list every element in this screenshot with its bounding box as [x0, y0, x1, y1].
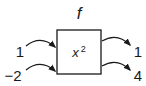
- function-box: [57, 30, 101, 74]
- input-arrow: [26, 64, 55, 71]
- expression-base: x: [71, 45, 79, 60]
- output-label: 1: [134, 43, 142, 60]
- output-arrow: [102, 63, 130, 70]
- function-machine-diagram: f x2 1 −2 1 4: [0, 0, 146, 86]
- expression-exponent: 2: [81, 44, 86, 54]
- output-arrow: [102, 38, 130, 45]
- input-label: −2: [4, 67, 21, 84]
- output-label: 4: [134, 67, 142, 84]
- input-label: 1: [16, 43, 24, 60]
- function-name-label: f: [77, 4, 84, 23]
- input-arrow: [26, 40, 55, 47]
